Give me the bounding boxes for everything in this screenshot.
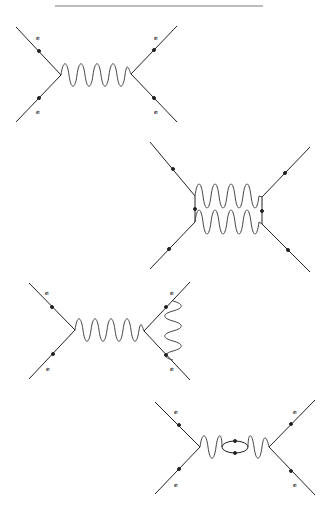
diagram-tree-level — [16, 26, 177, 122]
photon-vertex-correction — [165, 301, 182, 360]
diagram-vacuum-polarization — [155, 400, 315, 495]
label-e: e — [36, 34, 40, 41]
label-e: e — [154, 108, 158, 115]
label-e: e — [170, 289, 174, 296]
label-e: e — [170, 365, 174, 372]
label-e: e — [46, 365, 50, 372]
photon-propagator — [75, 319, 144, 342]
feynman-diagrams-canvas: e e e e e e e e — [0, 0, 333, 518]
label-e: e — [174, 481, 178, 488]
label-e: e — [293, 408, 297, 415]
label-e: e — [36, 108, 40, 115]
photon-propagator-left — [200, 436, 222, 459]
photon-propagator-right — [248, 436, 269, 459]
label-e: e — [293, 481, 297, 488]
photon-propagator-upper — [195, 184, 262, 208]
label-e: e — [174, 408, 178, 415]
label-e: e — [154, 34, 158, 41]
photon-propagator — [61, 64, 131, 87]
diagram-vertex-correction — [29, 282, 190, 380]
photon-propagator-lower — [195, 210, 262, 234]
label-e: e — [45, 289, 49, 296]
diagram-two-photon-box — [150, 142, 310, 272]
